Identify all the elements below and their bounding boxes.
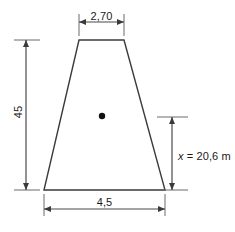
centroid-dot — [99, 113, 105, 119]
top-width-label: 2,70 — [0, 10, 203, 22]
left-dim-arrow-bottom — [23, 183, 29, 190]
left-height-label: 45 — [12, 100, 24, 124]
centroid-distance-equals: = — [187, 150, 194, 162]
bottom-width-label: 4,5 — [0, 196, 209, 208]
right-dim-arrow-top — [169, 117, 175, 124]
centroid-distance-symbol: x — [178, 150, 184, 162]
left-dim-arrow-top — [23, 40, 29, 47]
dimensioned-trapezoid-figure: 2,70 4,5 45 x = 20,6 m — [0, 0, 235, 232]
centroid-distance-label: x = 20,6 m — [178, 150, 231, 162]
centroid-distance-value: 20,6 m — [196, 150, 230, 162]
right-dim-arrow-bottom — [169, 183, 175, 190]
